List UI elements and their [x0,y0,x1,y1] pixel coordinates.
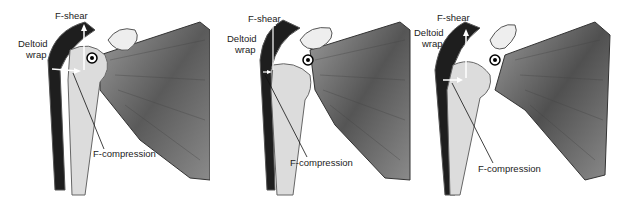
label-deltoid-wrap-1: Deltoid [18,38,48,49]
label-f-shear: F-shear [248,13,281,24]
label-deltoid-wrap-2: wrap [235,44,256,55]
label-f-shear: F-shear [437,12,470,23]
label-deltoid-wrap-2: wrap [26,49,47,60]
label-deltoid-wrap-1: Deltoid [414,27,444,38]
label-f-compression: F-compression [93,148,156,159]
shoulder-panel-1: F-shear Deltoid wrap F-compression [0,0,210,210]
shoulder-illustration [205,0,415,210]
shoulder-panel-2: F-shear Deltoid wrap F-compression [205,0,415,210]
shoulder-illustration [415,0,626,210]
acromion [490,25,516,49]
scapula [495,22,610,180]
humerus [447,62,491,195]
label-f-compression: F-compression [290,157,353,168]
label-deltoid-wrap-2: wrap [422,38,443,49]
shoulder-illustration [0,0,210,210]
shoulder-panel-3: F-shear Deltoid wrap F-compression [415,0,625,210]
label-f-shear: F-shear [55,10,88,21]
label-deltoid-wrap-1: Deltoid [227,33,257,44]
humerus [271,64,311,195]
humerus [68,46,108,195]
label-f-compression: F-compression [478,163,541,174]
